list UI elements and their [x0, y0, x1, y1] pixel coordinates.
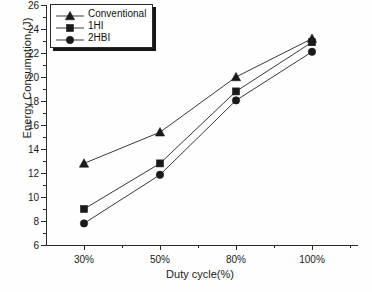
y-tick-label: 10: [28, 192, 39, 203]
y-tick-label: 16: [28, 120, 39, 131]
chart-legend: Conventional1HI2HBI: [50, 4, 153, 48]
legend-label: 2HBI: [88, 32, 110, 44]
y-tick-label: 6: [33, 240, 39, 251]
legend-label: Conventional: [88, 8, 146, 20]
chart-figure: Energy Consumption (J) Duty cycle(%) 681…: [0, 0, 372, 292]
series-conventional: [79, 34, 316, 167]
legend-entry: 2HBI: [55, 32, 146, 44]
y-tick-label: 24: [28, 24, 39, 35]
y-tick-label: 26: [28, 0, 39, 11]
data-point: [155, 128, 164, 136]
y-tick-label: 14: [28, 144, 39, 155]
series-line: [84, 42, 312, 209]
y-tick-label: 18: [28, 96, 39, 107]
legend-entry: Conventional: [55, 8, 146, 20]
data-point: [233, 88, 240, 95]
triangle-marker-icon: [55, 8, 85, 20]
series-1hi: [81, 39, 316, 213]
circle-marker-icon: [55, 32, 85, 44]
data-point: [157, 160, 164, 167]
x-axis-title: Duty cycle(%): [40, 268, 360, 280]
data-point: [79, 159, 88, 167]
legend-entry: 1HI: [55, 20, 146, 32]
series-2hbi: [80, 48, 315, 227]
y-tick-label: 20: [28, 72, 39, 83]
data-point: [81, 206, 88, 213]
legend-label: 1HI: [88, 20, 104, 32]
data-point: [232, 97, 239, 104]
y-tick-label: 12: [28, 168, 39, 179]
y-tick-label: 8: [33, 216, 39, 227]
x-tick-label: 80%: [226, 254, 246, 265]
y-tick-label: 22: [28, 48, 39, 59]
data-point: [80, 220, 87, 227]
x-tick-label: 30%: [74, 254, 94, 265]
series-line: [84, 39, 312, 164]
square-marker-icon: [55, 20, 85, 32]
data-point: [308, 48, 315, 55]
data-point: [156, 171, 163, 178]
x-tick-label: 50%: [150, 254, 170, 265]
data-point: [309, 39, 316, 46]
x-tick-label: 100%: [299, 254, 325, 265]
series-line: [84, 52, 312, 224]
data-point: [231, 72, 240, 80]
